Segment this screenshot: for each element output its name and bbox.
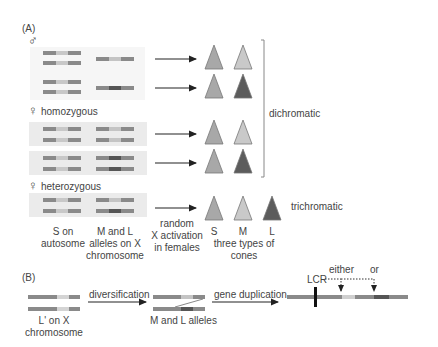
either-label: either [329,264,354,275]
diversification-label: diversification [89,289,150,300]
lcr-label: LCR [307,274,327,285]
panel-b-label: (B) [22,272,35,283]
dichromatic-label: dichromatic [269,108,320,119]
male-symbol-icon: ♂ [28,33,38,48]
female-symbol-icon: ♀ [28,103,38,118]
m-l-alleles-caption: M and L alleles on X chromosome [85,226,145,262]
l-prime-caption: L' on X chromosome [22,315,86,339]
trichromatic-label: trichromatic [291,201,343,212]
cone-s-label: S [206,226,222,238]
cone-m-label: M [235,226,251,238]
m-l-alleles-label: M and L alleles [150,315,217,326]
three-types-caption: three types of cones [199,238,289,262]
cone-l-label: L [264,226,280,238]
s-on-autosome-caption: S on autosome [36,226,90,250]
homozygous-label: homozygous [41,106,98,117]
chromosome-pair-s [43,51,81,65]
female-symbol-icon: ♀ [28,178,38,193]
gene-duplication-label: gene duplication [214,289,287,300]
random-x-activation-caption: random X activation in females [147,218,207,254]
or-label: or [370,264,379,275]
heterozygous-label: heterozygous [41,181,101,192]
